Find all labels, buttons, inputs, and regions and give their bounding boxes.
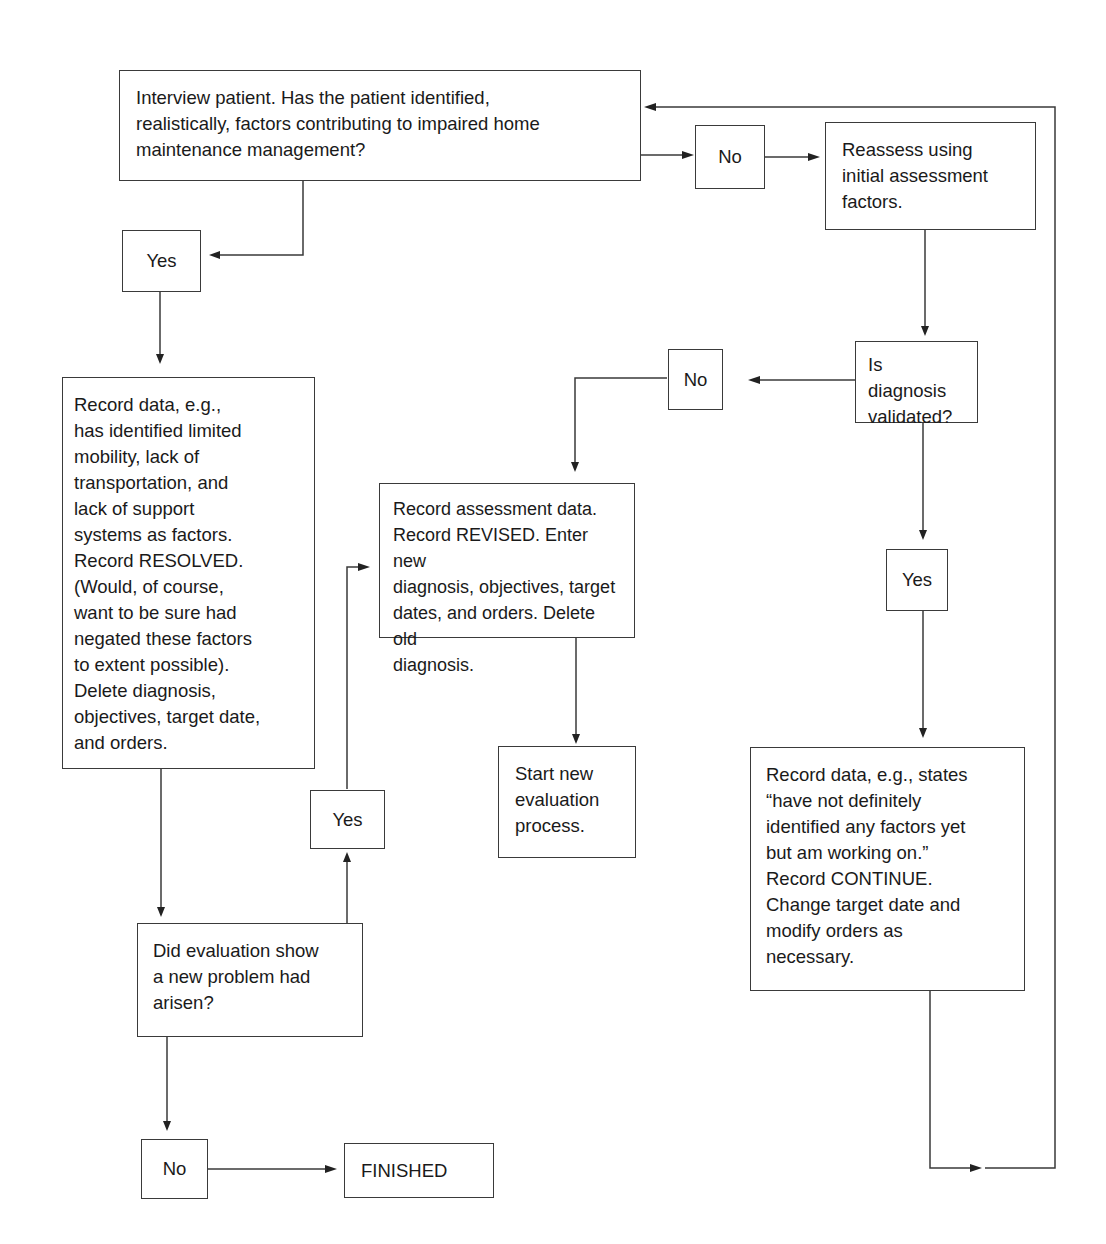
arrowhead-icon <box>157 907 165 917</box>
arrowhead-icon <box>156 354 164 364</box>
node-record-revised: Record assessment data. Record REVISED. … <box>379 483 635 638</box>
edge-loop-back-to-interview <box>656 107 1055 1168</box>
arrowhead-icon <box>919 728 927 738</box>
arrowhead-icon <box>748 376 760 384</box>
arrowhead-icon <box>571 462 579 472</box>
edge-interview-to-yes <box>220 180 303 255</box>
arrowhead-icon <box>325 1165 337 1173</box>
arrowhead-icon <box>808 153 820 161</box>
node-no-top: No <box>695 125 765 189</box>
arrowhead-icon <box>343 852 351 862</box>
node-no-mid: No <box>668 349 723 410</box>
node-start-new-evaluation: Start new evaluation process. <box>498 746 636 858</box>
arrowhead-icon <box>921 326 929 336</box>
node-record-resolved: Record data, e.g., has identified limite… <box>62 377 315 769</box>
node-diagnosis-validated: Is diagnosis validated? <box>855 341 978 423</box>
node-finished: FINISHED <box>344 1143 494 1198</box>
node-yes-mid: Yes <box>310 790 385 849</box>
edge-record-continue-down <box>930 990 970 1168</box>
node-record-continue: Record data, e.g., states “have not defi… <box>750 747 1025 991</box>
arrowhead-icon <box>358 563 370 571</box>
edge-no-to-record-revised <box>575 378 667 462</box>
node-no-bottom: No <box>141 1139 208 1199</box>
arrowhead-icon <box>572 734 580 744</box>
node-yes-top: Yes <box>122 230 201 292</box>
arrowhead-icon <box>970 1164 982 1172</box>
arrowhead-icon <box>682 151 694 159</box>
node-interview-patient: Interview patient. Has the patient ident… <box>119 70 641 181</box>
node-new-problem-question: Did evaluation show a new problem had ar… <box>137 923 363 1037</box>
arrowhead-icon <box>209 251 220 259</box>
arrowhead-icon <box>644 103 656 111</box>
arrowhead-icon <box>163 1121 171 1131</box>
edge-yes-to-record-revised <box>347 567 358 789</box>
arrowhead-icon <box>919 530 927 540</box>
node-reassess: Reassess using initial assessment factor… <box>825 122 1036 230</box>
node-yes-right: Yes <box>886 549 948 611</box>
